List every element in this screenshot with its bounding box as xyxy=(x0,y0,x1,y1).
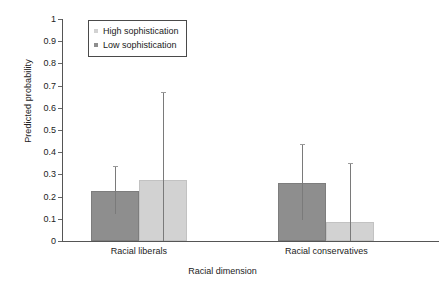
y-axis-tick-label: 0.8 xyxy=(0,58,56,68)
y-axis-tick-label: 1 xyxy=(0,14,56,24)
legend-label: Low sophistication xyxy=(103,40,177,50)
error-bar xyxy=(350,163,351,241)
error-bar xyxy=(302,144,303,219)
error-bar xyxy=(163,92,164,241)
legend-item: High sophistication xyxy=(94,24,179,38)
y-axis-tick-label: 0.6 xyxy=(0,103,56,113)
error-bar xyxy=(115,166,116,215)
y-axis-tick-label: 0.1 xyxy=(0,214,56,224)
y-axis-tick-label: 0.9 xyxy=(0,36,56,46)
x-axis-group-label: Racial conservatives xyxy=(285,246,368,256)
y-axis-tick-label: 0.2 xyxy=(0,192,56,202)
y-axis-tick-label: 0.7 xyxy=(0,81,56,91)
y-axis-tick-label: 0.3 xyxy=(0,169,56,179)
x-axis-title: Racial dimension xyxy=(0,266,445,276)
y-axis-tick-label: 0.4 xyxy=(0,147,56,157)
error-bar-cap xyxy=(161,92,166,93)
error-bar-cap xyxy=(113,166,118,167)
chart-legend: High sophisticationLow sophistication xyxy=(88,20,187,57)
error-bar-cap xyxy=(300,144,305,145)
legend-item: Low sophistication xyxy=(94,38,179,52)
y-axis-tick-label: 0 xyxy=(0,236,56,246)
y-axis-tick-label: 0.5 xyxy=(0,125,56,135)
legend-swatch-icon xyxy=(94,29,98,33)
chart-figure: Predicted probability Racial dimension 1… xyxy=(0,0,445,287)
legend-swatch-icon xyxy=(94,43,98,47)
legend-label: High sophistication xyxy=(103,26,179,36)
y-axis-tick-mark xyxy=(58,241,62,242)
x-axis-line xyxy=(62,241,439,242)
error-bar-cap xyxy=(348,163,353,164)
x-axis-group-label: Racial liberals xyxy=(111,246,167,256)
